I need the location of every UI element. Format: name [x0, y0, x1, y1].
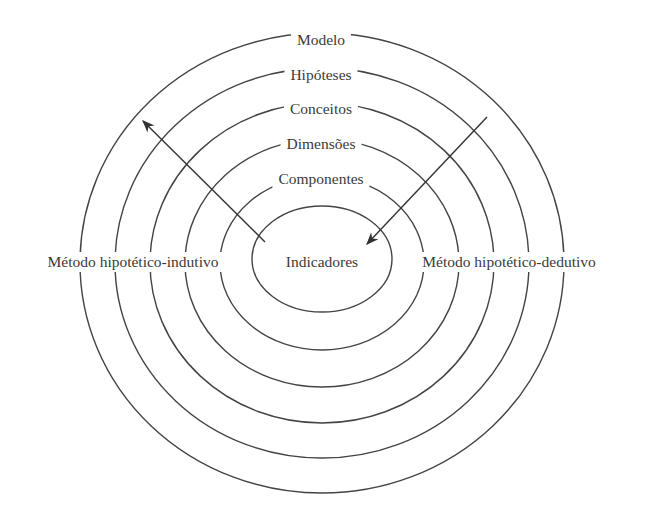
center-label-indicadores: Indicadores — [286, 252, 358, 272]
left-method-label: Método hipotético-indutivo — [44, 252, 223, 272]
level-label-conceitos: Conceitos — [284, 99, 358, 119]
level-label-componentes: Componentes — [272, 169, 369, 189]
inductive-arrow — [143, 121, 265, 242]
level-label-modelo: Modelo — [291, 30, 351, 50]
level-label-hipoteses: Hipóteses — [284, 65, 357, 85]
right-method-label: Método hipotético-dedutivo — [418, 252, 599, 272]
level-label-dimensoes: Dimensões — [281, 134, 362, 154]
